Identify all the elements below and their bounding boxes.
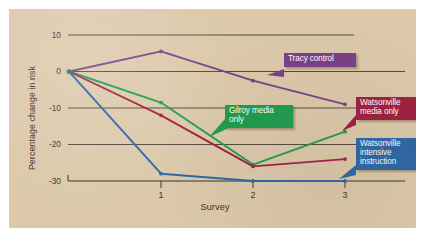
callout-pointer (342, 115, 356, 131)
data-point (159, 101, 163, 105)
callout-tracy-control: Tracy control (284, 53, 356, 67)
x-tick-label: 1 (151, 190, 171, 200)
data-point (343, 102, 347, 106)
series-layer (66, 50, 356, 183)
series-line (69, 72, 345, 182)
figure-container: Percentage change in risk Survey 100-10-… (0, 0, 425, 247)
y-tick-label: -30 (35, 176, 61, 186)
data-point (251, 179, 255, 183)
data-point (343, 130, 347, 134)
y-tick-label: 0 (35, 66, 61, 76)
y-tick-label: 10 (35, 30, 61, 40)
data-point (343, 157, 347, 161)
data-point (159, 50, 163, 54)
data-point (251, 79, 255, 83)
callout-watsonville-intensive-instruction: Watsonville intensive instruction (356, 138, 416, 170)
data-point (159, 113, 163, 117)
callout-pointer (267, 69, 284, 77)
data-point (251, 165, 255, 169)
callout-pointer (339, 165, 356, 179)
callout-watsonville-media-only: Watsonville media only (356, 97, 416, 120)
x-tick-label: 3 (335, 190, 355, 200)
x-axis-title: Survey (155, 202, 275, 212)
chart-plate: Percentage change in risk Survey 100-10-… (9, 9, 416, 228)
data-point (343, 179, 347, 183)
callout-gilroy-media-only: Gilroy media only (225, 105, 293, 128)
data-point (159, 172, 163, 176)
y-tick-label: -20 (35, 139, 61, 149)
y-tick-label: -10 (35, 103, 61, 113)
x-tick-label: 2 (243, 190, 263, 200)
